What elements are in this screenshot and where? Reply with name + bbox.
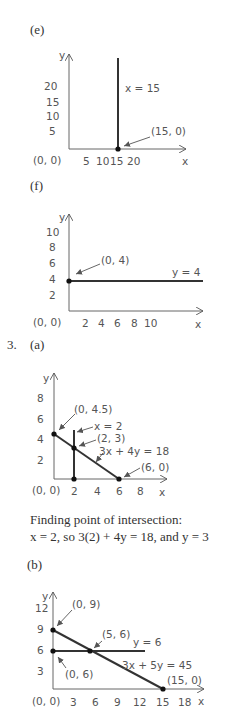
equation-label-3x-5y-45: 3x + 5y = 45 — [122, 659, 192, 671]
origin-label-3b: (0, 0) — [32, 695, 60, 707]
y-tick-12: 12 — [35, 602, 48, 614]
point-label-0-6: (0, 6) — [65, 668, 93, 680]
point-0-6 — [50, 648, 55, 653]
y-tick-6: 6 — [37, 644, 44, 656]
pointer-arrow-icon — [58, 657, 66, 668]
point-label-0-9: (0, 9) — [72, 598, 100, 610]
y-tick-3: 3 — [37, 665, 44, 677]
point-label-15-0: (15, 0) — [167, 674, 202, 686]
x-tick-12: 12 — [133, 696, 146, 708]
pointer-arrow-icon — [94, 641, 102, 648]
equation-label-y-equals-6: y = 6 — [133, 636, 161, 648]
x-tick-3: 3 — [70, 696, 77, 708]
pointer-arrow-icon — [57, 610, 72, 626]
x-axis-label-3b: x — [198, 695, 204, 707]
y-axis-label-3b: y — [42, 590, 48, 602]
graph-3b-svg — [0, 0, 228, 727]
x-tick-9: 9 — [114, 696, 121, 708]
x-tick-15: 15 — [156, 696, 169, 708]
x-tick-18: 18 — [178, 696, 191, 708]
y-tick-9: 9 — [37, 623, 44, 635]
point-5-6 — [87, 648, 92, 653]
point-label-5-6: (5, 6) — [102, 628, 130, 640]
point-0-9 — [50, 627, 55, 632]
x-tick-6: 6 — [92, 696, 99, 708]
point-15-0 — [160, 686, 165, 691]
